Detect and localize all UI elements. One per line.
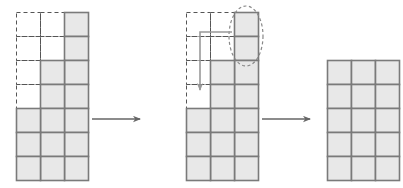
block-cell[interactable] bbox=[211, 157, 235, 181]
block-cell[interactable] bbox=[328, 85, 352, 109]
block-cell[interactable] bbox=[187, 157, 211, 181]
block-cell[interactable] bbox=[211, 85, 235, 109]
ghost-cell bbox=[211, 13, 235, 37]
diagram-canvas bbox=[0, 0, 403, 188]
block-cell[interactable] bbox=[235, 157, 259, 181]
block-cell[interactable] bbox=[211, 61, 235, 85]
block-cell[interactable] bbox=[376, 109, 400, 133]
block-cell[interactable] bbox=[41, 85, 65, 109]
ghost-cell bbox=[41, 13, 65, 37]
block-cell[interactable] bbox=[352, 85, 376, 109]
panel-middle bbox=[187, 6, 264, 181]
block-cell[interactable] bbox=[211, 133, 235, 157]
block-cell[interactable] bbox=[65, 85, 89, 109]
block-cell[interactable] bbox=[211, 109, 235, 133]
block-cell[interactable] bbox=[65, 13, 89, 37]
ghost-cell bbox=[187, 13, 211, 37]
block-cell[interactable] bbox=[376, 61, 400, 85]
block-cell[interactable] bbox=[352, 133, 376, 157]
ghost-cell bbox=[41, 37, 65, 61]
block-cell[interactable] bbox=[65, 61, 89, 85]
block-cell[interactable] bbox=[235, 13, 259, 37]
block-cell[interactable] bbox=[352, 109, 376, 133]
block-cell[interactable] bbox=[65, 109, 89, 133]
block-cell[interactable] bbox=[41, 61, 65, 85]
block-cell[interactable] bbox=[376, 133, 400, 157]
block-cell[interactable] bbox=[41, 157, 65, 181]
ghost-cell bbox=[187, 37, 211, 61]
panel-initial bbox=[17, 13, 89, 181]
block-cell[interactable] bbox=[376, 85, 400, 109]
block-cell[interactable] bbox=[352, 61, 376, 85]
block-cell[interactable] bbox=[235, 109, 259, 133]
block-cell[interactable] bbox=[328, 133, 352, 157]
block-cell[interactable] bbox=[187, 109, 211, 133]
ghost-cell bbox=[187, 61, 211, 85]
block-cell[interactable] bbox=[328, 109, 352, 133]
ghost-cell bbox=[187, 85, 211, 109]
ghost-cell bbox=[17, 85, 41, 109]
block-cell[interactable] bbox=[328, 61, 352, 85]
ghost-cell bbox=[17, 37, 41, 61]
block-cell[interactable] bbox=[41, 133, 65, 157]
block-cell[interactable] bbox=[17, 109, 41, 133]
ghost-cell bbox=[17, 61, 41, 85]
block-cell[interactable] bbox=[65, 37, 89, 61]
block-cell[interactable] bbox=[235, 133, 259, 157]
panel-final bbox=[328, 61, 400, 181]
block-transformation-diagram bbox=[0, 0, 403, 188]
block-cell[interactable] bbox=[352, 157, 376, 181]
block-cell[interactable] bbox=[17, 133, 41, 157]
block-cell[interactable] bbox=[41, 109, 65, 133]
block-cell[interactable] bbox=[235, 61, 259, 85]
block-cell[interactable] bbox=[65, 157, 89, 181]
block-cell[interactable] bbox=[187, 133, 211, 157]
block-cell[interactable] bbox=[235, 37, 259, 61]
ghost-cell bbox=[17, 13, 41, 37]
block-cell[interactable] bbox=[328, 157, 352, 181]
block-cell[interactable] bbox=[235, 85, 259, 109]
block-cell[interactable] bbox=[17, 157, 41, 181]
block-cell[interactable] bbox=[376, 157, 400, 181]
block-cell[interactable] bbox=[65, 133, 89, 157]
